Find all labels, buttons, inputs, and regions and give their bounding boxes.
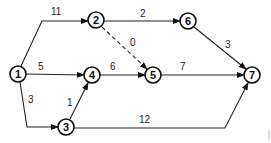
edge-label-3-7: 12 <box>139 114 151 125</box>
edge-1-3 <box>20 82 58 127</box>
edge-3-7 <box>74 83 248 128</box>
node-5: 5 <box>145 67 161 83</box>
edge-3-4 <box>70 83 88 119</box>
svg-text:5: 5 <box>150 69 156 81</box>
edge-label-2-6: 2 <box>140 8 146 19</box>
edge-1-2 <box>21 21 88 66</box>
edge-1-4 <box>26 74 84 75</box>
edge-2-5-dummy <box>102 27 147 69</box>
edge-label-4-5: 6 <box>110 61 116 72</box>
node-3: 3 <box>58 119 74 135</box>
svg-text:6: 6 <box>185 15 191 27</box>
node-1: 1 <box>10 66 26 82</box>
edge-label-1-4: 5 <box>38 61 44 72</box>
svg-text:1: 1 <box>15 68 21 80</box>
edge-label-3-4: 1 <box>67 97 73 108</box>
svg-text:3: 3 <box>63 121 69 133</box>
edge-label-2-5: 0 <box>130 37 136 48</box>
network-diagram: 11 5 3 1 2 0 6 7 3 12 1 2 3 4 5 6 7 <box>0 0 271 143</box>
node-7: 7 <box>244 67 260 83</box>
svg-text:4: 4 <box>89 69 96 81</box>
node-4: 4 <box>84 67 100 83</box>
edge-label-1-2: 11 <box>51 6 62 17</box>
edge-label-1-3: 3 <box>28 94 34 105</box>
svg-text:2: 2 <box>93 14 99 26</box>
edge-label-6-7: 3 <box>225 39 231 50</box>
node-2: 2 <box>88 12 104 28</box>
node-6: 6 <box>180 13 196 29</box>
svg-text:7: 7 <box>249 69 255 81</box>
edge-6-7 <box>194 27 246 69</box>
edge-label-5-7: 7 <box>180 61 186 72</box>
